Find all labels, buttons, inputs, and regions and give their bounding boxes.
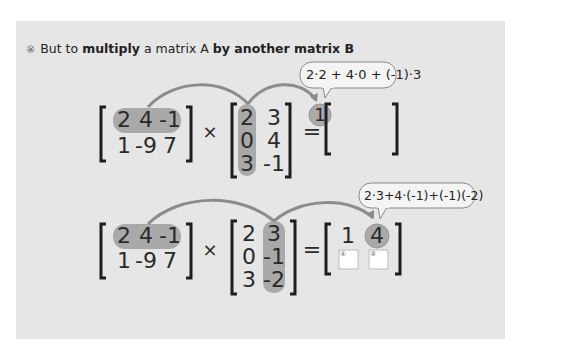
answer-box-1[interactable]: ① bbox=[340, 250, 346, 258]
cell: -9 bbox=[134, 249, 158, 273]
cell: 1 bbox=[112, 249, 136, 273]
result-cell: 1 bbox=[336, 224, 360, 248]
cell: 2 bbox=[237, 222, 261, 246]
cell: -1 bbox=[158, 224, 182, 248]
cell: 2 bbox=[112, 224, 136, 248]
cell: 3 bbox=[237, 268, 261, 292]
speech-bubble-formula: 2·3+4·(-1)+(-1)(-2) bbox=[364, 188, 483, 203]
cell: 0 bbox=[237, 245, 261, 269]
cell: 7 bbox=[158, 249, 182, 273]
equals-sign: = bbox=[300, 238, 324, 262]
example2-graphics bbox=[0, 0, 572, 356]
cell: 4 bbox=[134, 224, 158, 248]
cell: -2 bbox=[262, 268, 286, 292]
times-operator: × bbox=[198, 238, 222, 262]
result-cell: 4 bbox=[365, 224, 389, 248]
cell: 3 bbox=[262, 222, 286, 246]
cell: -1 bbox=[262, 245, 286, 269]
answer-box-2[interactable]: ② bbox=[370, 250, 376, 258]
